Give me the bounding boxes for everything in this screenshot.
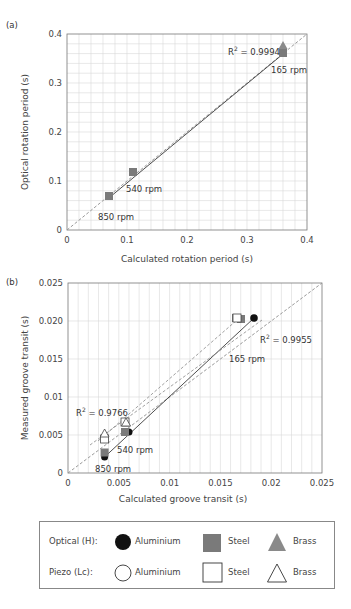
legend-item-aluminium: Aluminium [135,536,181,546]
panel-b-y-ticks: 00.0050.010.0150.0200.025 [39,278,63,478]
x-tick-label: 0 [64,235,69,245]
legend-item-brass: Brass [293,567,316,577]
legend-item-aluminium: Aluminium [135,567,181,577]
x-tick-label: 0.005 [107,478,131,488]
panel-a-y-ticks: 00.10.20.30.4 [48,29,62,235]
steel-marker [101,449,109,457]
circle-open-icon [115,565,131,581]
panel-a-y-axis-label: Optical rotation period (s) [20,74,30,190]
y-tick-label: 0.3 [48,78,62,88]
r2-annotation-b1: R2 = 0.9955 [260,333,312,345]
panel-b-y-axis-label: Measured groove transit (s) [20,316,30,441]
y-tick-label: 0 [58,468,63,478]
x-tick-label: 0.2 [180,235,194,245]
legend-row-markers [40,532,336,552]
panel-b-x-ticks: 00.0050.010.0150.020.025 [65,478,334,488]
legend-row-piezo: Piezo (Lc): Aluminium Steel Brass [40,563,334,583]
aluminium-marker [250,314,258,322]
rpm-165-label: 165 rpm [229,354,265,364]
y-tick-label: 0.2 [48,127,62,137]
legend-row-markers [40,562,336,584]
y-tick-label: 0.020 [39,316,63,326]
triangle-open-icon [268,564,287,582]
x-tick-label: 0.3 [240,235,254,245]
legend-item-steel: Steel [228,567,250,577]
steel-marker [129,168,137,176]
y-tick-label: 0.015 [39,354,63,364]
panel-b-identity-line [68,283,322,473]
x-tick-label: 0.01 [160,478,179,488]
y-tick-label: 0.4 [48,29,62,39]
x-tick-label: 0.015 [208,478,232,488]
y-tick-label: 0.005 [39,430,63,440]
figure: (a) R2 = 0.9994 165 rpm 540 rpm 850 rpm … [0,0,351,609]
square-open-icon [203,563,222,582]
r2-annotation: R2 = 0.9994 [228,45,280,57]
y-tick-label: 0 [57,225,62,235]
rpm-540-label: 540 rpm [126,184,162,194]
legend-item-steel: Steel [228,536,250,546]
steel-marker [279,49,287,57]
y-tick-label: 0.01 [44,392,63,402]
panel-a-x-ticks: 00.10.20.30.4 [64,235,313,245]
r2-annotation-b2: R2 = 0.9766 [76,406,128,418]
legend: Optical (H): Aluminium Steel Brass Piezo… [39,521,335,589]
steel-marker [105,192,113,200]
panel-a-x-axis-label: Calculated rotation period (s) [121,254,253,264]
x-tick-label: 0.02 [262,478,281,488]
panel-a: (a) R2 = 0.9994 165 rpm 540 rpm 850 rpm … [6,20,314,264]
rpm-540-label: 540 rpm [117,445,153,455]
circle-filled-icon [115,534,131,550]
square-filled-icon [203,534,221,552]
x-tick-label: 0.4 [300,235,314,245]
panel-b-fit-line-aluminium [105,318,254,457]
legend-row-optical: Optical (H): Aluminium Steel Brass [40,532,334,552]
rpm-850-label: 850 rpm [98,212,134,222]
piezo-steel-marker [233,314,241,322]
y-tick-label: 0.025 [39,278,63,288]
triangle-filled-icon [268,533,286,551]
x-tick-label: 0.1 [120,235,134,245]
rpm-850-label: 850 rpm [95,464,131,474]
panel-a-label: (a) [6,20,18,30]
panel-b-fit-line-steel [90,320,262,445]
panel-b-x-axis-label: Calculated groove transit (s) [119,494,247,504]
rpm-165-label: 165 rpm [271,65,307,75]
legend-item-brass: Brass [293,536,316,546]
x-tick-label: 0 [65,478,70,488]
y-tick-label: 0.1 [48,176,62,186]
panel-b: (b) R2 = 0.9955 R2 = 0.9766 165 rpm 540 … [6,277,334,504]
panel-b-label: (b) [6,277,18,287]
x-tick-label: 0.025 [310,478,334,488]
steel-marker [121,428,129,436]
